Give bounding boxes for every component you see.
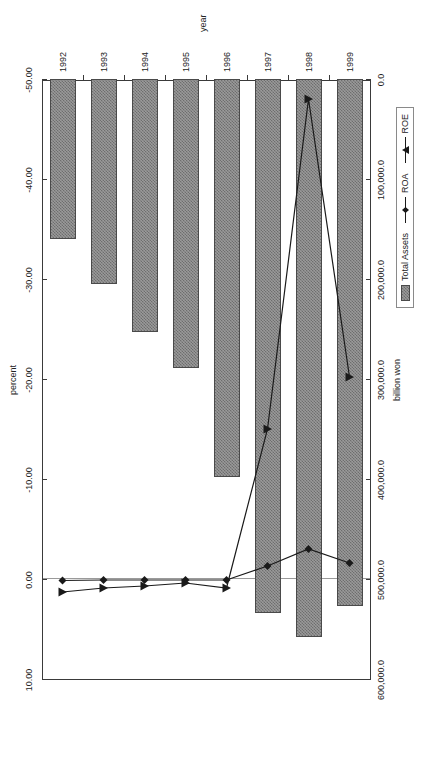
percent-tick-label: -30.00 xyxy=(24,267,34,293)
percent-tick xyxy=(42,79,47,80)
billion-won-tick xyxy=(366,479,371,480)
billion-won-tick xyxy=(366,279,371,280)
percent-tick-label: -40.00 xyxy=(24,167,34,193)
percent-tick xyxy=(42,379,47,380)
marker-roe-1999 xyxy=(346,373,355,382)
legend-label-total-assets: Total Assets xyxy=(400,233,410,281)
legend-label-roa: ROA xyxy=(400,173,410,193)
billion-won-tick xyxy=(366,79,371,80)
percent-axis-title: percent xyxy=(8,365,18,395)
year-axis-tick xyxy=(247,75,248,80)
billion-won-tick-label: 200,000.0 xyxy=(376,260,386,300)
percent-tick-label: 10.00 xyxy=(24,669,34,692)
legend-item-roe: ROE xyxy=(400,114,410,164)
billion-won-tick xyxy=(366,679,371,680)
marker-roa-1993 xyxy=(100,576,108,584)
percent-tick-label: -20.00 xyxy=(24,367,34,393)
year-axis-tick xyxy=(206,75,207,80)
percent-tick-label: -50.00 xyxy=(24,67,34,93)
billion-won-axis-title: billion won xyxy=(392,359,402,401)
chart-figure: percent billion won year Total Assets RO… xyxy=(0,0,430,774)
category-axis-title: year xyxy=(198,14,208,32)
year-label-1997: 1997 xyxy=(263,52,273,72)
chart-legend: Total Assets ROA ROE xyxy=(396,107,414,308)
year-axis-tick xyxy=(124,75,125,80)
legend-item-roa: ROA xyxy=(400,173,410,223)
diamond-marker-icon xyxy=(401,197,410,223)
year-label-1994: 1994 xyxy=(140,52,150,72)
percent-tick-label: 0.00 xyxy=(24,571,34,589)
billion-won-tick-label: 100,000.0 xyxy=(376,160,386,200)
percent-tick xyxy=(42,279,47,280)
year-label-1996: 1996 xyxy=(222,52,232,72)
billion-won-tick-label: 400,000.0 xyxy=(376,460,386,500)
marker-roe-1993 xyxy=(100,584,109,593)
marker-roa-1992 xyxy=(59,577,67,585)
year-label-1995: 1995 xyxy=(181,52,191,72)
legend-item-total-assets: Total Assets xyxy=(400,233,410,301)
marker-roa-1999 xyxy=(346,559,354,567)
plot-area xyxy=(42,80,370,680)
billion-won-tick-label: 0.0 xyxy=(376,74,386,87)
percent-axis-line xyxy=(42,80,43,680)
year-axis-tick xyxy=(83,75,84,80)
percent-tick xyxy=(42,579,47,580)
billion-won-tick xyxy=(366,579,371,580)
billion-won-axis-line xyxy=(370,80,371,680)
chart-page: { "chart_data": { "type": "bar", "title"… xyxy=(0,0,430,774)
marker-roa-1998 xyxy=(305,545,313,553)
year-label-1999: 1999 xyxy=(345,52,355,72)
year-label-1998: 1998 xyxy=(304,52,314,72)
triangle-marker-icon xyxy=(401,137,410,163)
line-roe xyxy=(63,99,350,592)
billion-won-tick xyxy=(366,179,371,180)
billion-won-tick xyxy=(366,379,371,380)
billion-won-tick-label: 300,000.0 xyxy=(376,360,386,400)
percent-tick xyxy=(42,679,47,680)
marker-roa-1997 xyxy=(264,562,272,570)
line-roa xyxy=(63,549,350,581)
billion-won-tick-label: 600,000.0 xyxy=(376,660,386,700)
bar-swatch-icon xyxy=(401,285,410,301)
rotated-figure-wrapper: percent billion won year Total Assets RO… xyxy=(0,0,430,774)
legend-label-roe: ROE xyxy=(400,114,410,134)
year-label-1993: 1993 xyxy=(99,52,109,72)
year-axis-tick xyxy=(288,75,289,80)
year-axis-tick xyxy=(165,75,166,80)
percent-tick xyxy=(42,179,47,180)
billion-won-tick-label: 500,000.0 xyxy=(376,560,386,600)
marker-roe-1992 xyxy=(59,588,68,597)
percent-tick-label: -10.00 xyxy=(24,467,34,493)
year-axis-tick xyxy=(329,75,330,80)
percent-tick xyxy=(42,479,47,480)
plot-inner xyxy=(42,81,370,679)
line-series-layer xyxy=(42,79,370,679)
year-label-1992: 1992 xyxy=(58,52,68,72)
